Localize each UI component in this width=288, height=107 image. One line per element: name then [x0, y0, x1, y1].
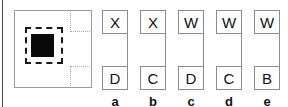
figure-left-frame-edge [2, 0, 3, 107]
dotted-region-top-right [70, 10, 92, 32]
column-c-top-cell: W [178, 10, 204, 34]
column-e-top-cell: W [254, 10, 280, 34]
column-e-bottom-cell: B [254, 66, 280, 90]
column-b-label: b [140, 94, 166, 107]
column-d-top-cell: W [216, 10, 242, 34]
solid-core-square [31, 34, 54, 57]
column-c-label: c [178, 94, 204, 107]
column-c-bottom-cell: D [178, 66, 204, 90]
figure-canvas: X D a X C b W D c W C d W B e [0, 0, 288, 107]
column-a: X D a [102, 10, 134, 105]
dotted-region-bottom-right [70, 66, 92, 88]
column-e-label: e [254, 94, 280, 107]
column-b-top-cell: X [140, 10, 166, 34]
column-group: X D a X C b W D c W C d W B e [102, 10, 286, 105]
column-d-bottom-cell: C [216, 66, 242, 90]
column-b-bottom-cell: C [140, 66, 166, 90]
column-d: W C d [216, 10, 248, 105]
column-a-top-cell: X [102, 10, 128, 34]
column-c: W D c [178, 10, 210, 105]
column-a-label: a [102, 94, 128, 107]
schematic-panel [14, 10, 92, 88]
column-a-bottom-cell: D [102, 66, 128, 90]
column-d-label: d [216, 94, 242, 107]
column-b: X C b [140, 10, 172, 105]
column-e: W B e [254, 10, 286, 105]
